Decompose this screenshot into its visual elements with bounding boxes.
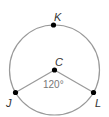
label-l: L [95,97,101,109]
point-k [51,22,56,27]
point-l [91,90,96,95]
circle-diagram: K C J L 120° [0,0,109,117]
point-c [52,67,57,72]
label-c: C [55,56,63,68]
point-j [13,90,18,95]
label-j: J [5,97,12,109]
angle-label: 120° [43,79,64,90]
label-k: K [54,11,62,23]
